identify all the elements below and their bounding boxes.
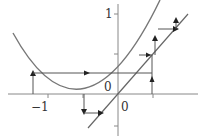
cobweb-diagram: 1 −1 0 0 xyxy=(0,0,202,140)
arrow-up-icon xyxy=(150,76,155,82)
x-tick-label-neg1: −1 xyxy=(31,100,49,114)
origin-label-upper: 0 xyxy=(104,80,112,94)
arrow-right-icon xyxy=(84,71,90,76)
origin-label-lower: 0 xyxy=(121,100,129,114)
y-tick-label-1: 1 xyxy=(105,7,113,21)
diagonal-line xyxy=(88,14,188,128)
parabola-curve xyxy=(13,0,160,89)
